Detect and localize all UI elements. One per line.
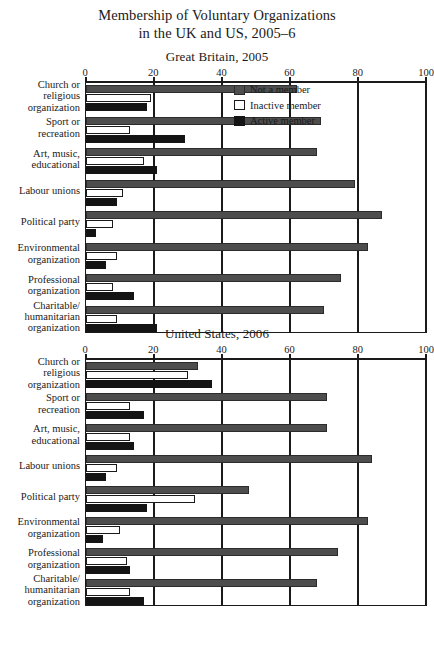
category-label-line: Labour unions (0, 185, 80, 196)
category-label-line: religious (0, 367, 80, 378)
bar-active (86, 198, 117, 206)
bar-inactive (86, 189, 123, 197)
category-label: Environmentalorganization (0, 516, 80, 539)
page-title-line-1: Membership of Voluntary Organizations (0, 7, 434, 25)
bar-notamember (86, 579, 317, 587)
bar-notamember (86, 306, 324, 314)
category-label: Church orreligiousorganization (0, 356, 80, 390)
bar-group (86, 482, 426, 513)
bar-active (86, 597, 144, 605)
bar-group (86, 451, 426, 482)
chart-panel-great-britain: Great Britain, 2005 020406080100 Church … (0, 49, 434, 319)
category-label-line: Professional (0, 547, 80, 558)
category-label-line: organization (0, 254, 80, 265)
bar-inactive (86, 220, 113, 228)
legend-swatch-active (234, 116, 245, 126)
bar-group (86, 575, 426, 606)
category-label-line: organization (0, 379, 80, 390)
bar-inactive (86, 526, 120, 534)
bar-inactive (86, 588, 130, 596)
category-label: Sport orrecreation (0, 116, 80, 139)
category-label-line: Professional (0, 274, 80, 285)
category-label-line: organization (0, 559, 80, 570)
bar-active (86, 535, 103, 543)
category-label: Professionalorganization (0, 547, 80, 570)
category-label-line: Church or (0, 79, 80, 90)
bar-active (86, 566, 130, 574)
bar-active (86, 504, 147, 512)
category-label: Sport orrecreation (0, 392, 80, 415)
bar-active (86, 229, 96, 237)
bar-group (86, 358, 426, 389)
bar-inactive (86, 126, 130, 134)
bar-inactive (86, 464, 117, 472)
category-label-line: Sport or (0, 392, 80, 403)
bar-group (86, 420, 426, 451)
bar-notamember (86, 455, 372, 463)
category-label-line: educational (0, 159, 80, 170)
category-label-line: Environmental (0, 242, 80, 253)
category-label-line: Church or (0, 356, 80, 367)
category-label-line: religious (0, 90, 80, 101)
category-label-line: organization (0, 528, 80, 539)
bar-inactive (86, 495, 195, 503)
category-label-line: organization (0, 102, 80, 113)
plot-canvas-united-states (85, 358, 426, 606)
bar-inactive (86, 371, 188, 379)
category-label-line: Charitable/ (0, 573, 80, 584)
category-label-line: organization (0, 285, 80, 296)
bar-group (86, 389, 426, 420)
plot-area-united-states: 020406080100 Church orreligiousorganizat… (85, 344, 426, 592)
bar-group (86, 513, 426, 544)
category-label-line: Art, music, (0, 423, 80, 434)
page-title: Membership of Voluntary Organizations in… (0, 0, 434, 42)
bar-group (86, 176, 426, 208)
bar-active (86, 292, 134, 300)
bar-group (86, 207, 426, 239)
category-label-line: Charitable/ (0, 300, 80, 311)
legend-swatch-inactive (234, 100, 245, 110)
bar-active (86, 261, 106, 269)
x-axis-tick-labels-great-britain: 020406080100 (85, 67, 426, 81)
bar-active (86, 380, 212, 388)
category-label: Art, music,educational (0, 148, 80, 171)
page-title-line-2: in the UK and US, 2005–6 (0, 25, 434, 43)
bar-active (86, 411, 144, 419)
category-label-line: humanitarian (0, 311, 80, 322)
bar-inactive (86, 157, 144, 165)
category-label: Professionalorganization (0, 274, 80, 297)
bar-active (86, 135, 185, 143)
bar-notamember (86, 211, 382, 219)
bar-notamember (86, 517, 368, 525)
category-label: Political party (0, 216, 80, 227)
bar-active (86, 442, 134, 450)
chart-title-great-britain: Great Britain, 2005 (0, 49, 434, 65)
category-label: Labour unions (0, 185, 80, 196)
legend-item: Active member (234, 113, 321, 129)
bar-notamember (86, 274, 341, 282)
bar-inactive (86, 557, 127, 565)
bar-inactive (86, 283, 113, 291)
bar-notamember (86, 148, 317, 156)
x-axis-tick-labels-united-states: 020406080100 (85, 344, 426, 358)
category-label: Labour unions (0, 460, 80, 471)
category-label: Environmentalorganization (0, 242, 80, 265)
bar-active (86, 473, 106, 481)
category-label: Church orreligiousorganization (0, 79, 80, 113)
category-label-line: Sport or (0, 116, 80, 127)
legend-item: Inactive member (234, 98, 321, 114)
bar-inactive (86, 252, 117, 260)
chart-title-united-states: United States, 2006 (0, 326, 434, 342)
category-label: Political party (0, 491, 80, 502)
legend-label: Not a member (250, 82, 310, 98)
category-label-line: recreation (0, 404, 80, 415)
bar-inactive (86, 433, 130, 441)
bar-group (86, 544, 426, 575)
bar-notamember (86, 548, 338, 556)
bar-group (86, 270, 426, 302)
bar-notamember (86, 424, 327, 432)
category-label-line: Art, music, (0, 148, 80, 159)
chart-legend: Not a memberInactive memberActive member (234, 82, 321, 129)
legend-swatch-notamember (234, 85, 245, 95)
category-label-line: humanitarian (0, 584, 80, 595)
